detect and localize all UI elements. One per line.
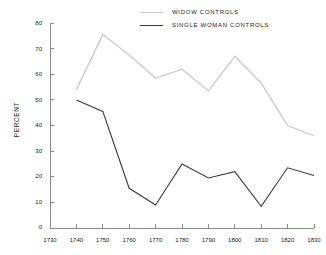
series-line-widow-controls <box>76 35 314 136</box>
plot-area <box>0 0 326 255</box>
data-series-group <box>76 35 314 207</box>
axis-lines <box>50 23 314 228</box>
chart-container: PERCENT 80 70 60 50 40 30 20 10 0 1730 1… <box>0 0 326 255</box>
series-line-single-woman-controls <box>76 100 314 206</box>
